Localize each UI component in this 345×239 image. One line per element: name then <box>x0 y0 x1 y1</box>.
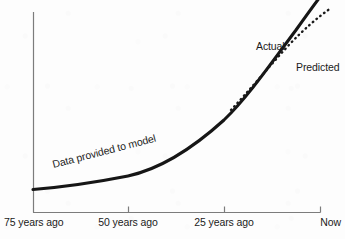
x-tick-label-25-years: 25 years ago <box>194 216 254 228</box>
annotation-predicted: Predicted <box>296 61 339 73</box>
x-tick-label-50-years: 50 years ago <box>98 216 158 228</box>
chart-plot-area <box>0 0 345 239</box>
x-tick-label-75-years: 75 years ago <box>4 216 64 228</box>
chart-canvas: 75 years ago 50 years ago 25 years ago N… <box>0 0 345 239</box>
x-tick-label-now: Now <box>320 216 341 228</box>
annotation-actual: Actual <box>256 40 285 52</box>
